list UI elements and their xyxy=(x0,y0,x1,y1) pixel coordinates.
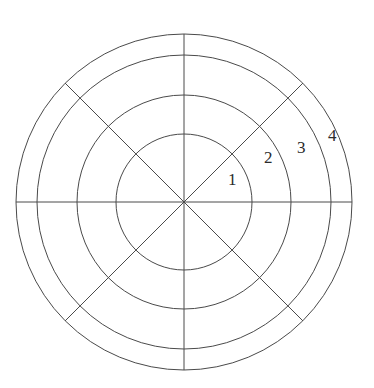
ring-label-2: 2 xyxy=(264,149,273,166)
ring-label-3: 3 xyxy=(297,139,306,156)
ring-label-1: 1 xyxy=(228,171,237,188)
ring-label-4: 4 xyxy=(328,127,337,144)
polar-grid-svg xyxy=(0,0,374,388)
polar-ring-diagram: 1 2 3 4 xyxy=(0,0,374,388)
axis-lines-group xyxy=(16,34,352,370)
